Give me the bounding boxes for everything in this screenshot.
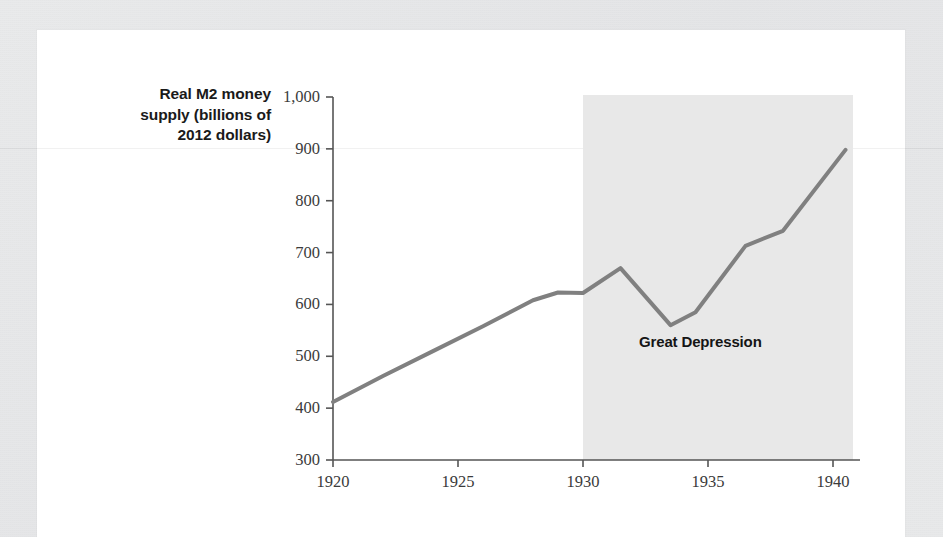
x-axis-tick-label: 1935 xyxy=(673,474,743,491)
y-axis-tick-label: 600 xyxy=(256,296,320,313)
x-axis-tick-label: 1930 xyxy=(548,474,618,491)
x-axis-tick-label: 1920 xyxy=(298,474,368,491)
plot-area xyxy=(0,0,943,537)
chart-figure: Real M2 money supply (billions of 2012 d… xyxy=(0,0,943,537)
great-depression-band xyxy=(583,95,853,460)
shaded-region xyxy=(583,95,853,460)
y-axis-title-line-1: Real M2 money xyxy=(159,85,271,102)
y-axis-tick-label: 800 xyxy=(256,193,320,210)
y-axis-tick-label: 700 xyxy=(256,245,320,262)
x-axis-ticks xyxy=(333,460,833,467)
y-axis-tick-label: 1,000 xyxy=(256,89,320,106)
y-axis-tick-label: 500 xyxy=(256,348,320,365)
x-axis-tick-label: 1925 xyxy=(423,474,493,491)
y-axis-tick-label: 900 xyxy=(256,141,320,158)
y-axis-tick-label: 400 xyxy=(256,400,320,417)
y-axis-ticks xyxy=(326,97,333,460)
y-axis-tick-label: 300 xyxy=(256,452,320,469)
y-axis-title-line-2: supply (billions of xyxy=(140,106,271,123)
great-depression-annotation: Great Depression xyxy=(639,333,762,350)
y-axis-title: Real M2 money supply (billions of 2012 d… xyxy=(96,84,271,146)
x-axis-tick-label: 1940 xyxy=(798,474,868,491)
